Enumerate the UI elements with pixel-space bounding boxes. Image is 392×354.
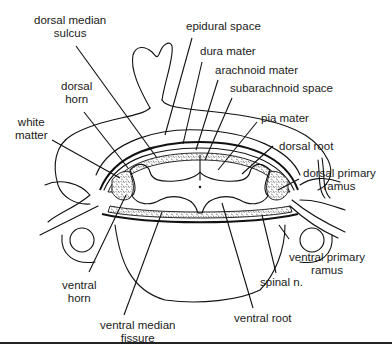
label-ventral-primary-ramus: ventral primary ramus — [289, 251, 365, 277]
spinal-cord-cross-section-diagram: dorsal median sulcus epidural space dura… — [0, 0, 392, 354]
label-pia-mater: pia mater — [261, 112, 309, 125]
label-arachnoid-mater: arachnoid mater — [215, 64, 298, 77]
label-dorsal-horn: dorsal horn — [61, 80, 92, 106]
label-line: ramus — [303, 180, 376, 193]
label-line: dorsal primary — [303, 167, 376, 180]
label-ventral-horn: ventral horn — [62, 279, 97, 305]
label-dura-mater: dura mater — [200, 45, 256, 58]
label-line: white — [15, 116, 48, 129]
label-line: dorsal — [61, 80, 92, 93]
label-line: horn — [61, 93, 92, 106]
label-subarachnoid-space: subarachnoid space — [230, 82, 333, 95]
label-dorsal-primary-ramus: dorsal primary ramus — [303, 167, 376, 193]
vertebra-outline — [45, 43, 345, 222]
label-ventral-root: ventral root — [234, 312, 292, 325]
label-white-matter: white matter — [15, 116, 48, 142]
label-line: sulcus — [34, 27, 106, 40]
label-spinal-n: spinal n. — [260, 276, 303, 289]
label-line: matter — [15, 129, 48, 142]
label-dorsal-median-sulcus: dorsal median sulcus — [34, 14, 106, 40]
label-line: ventral primary — [289, 251, 365, 264]
label-line: ventral median — [100, 319, 175, 332]
label-line: horn — [62, 292, 97, 305]
label-line: dorsal median — [34, 14, 106, 27]
label-epidural-space: epidural space — [186, 20, 261, 33]
bottom-rule-divider — [0, 342, 392, 344]
label-line: ventral — [62, 279, 97, 292]
label-dorsal-root: dorsal root — [279, 140, 333, 153]
